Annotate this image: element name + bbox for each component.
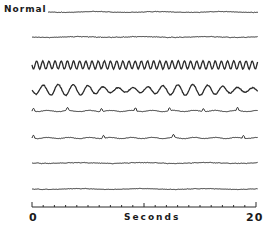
x-tick-end: 20 — [246, 211, 263, 224]
trace-6-line — [32, 134, 258, 138]
x-axis-title: Seconds — [124, 212, 180, 222]
trace-5-line — [32, 107, 258, 111]
trace-4-line — [32, 84, 258, 95]
x-tick-start: 0 — [29, 211, 38, 224]
trace-3-line — [32, 61, 258, 70]
trace-7-line — [32, 162, 258, 164]
x-axis — [32, 202, 256, 207]
row-label-normal: Normal — [4, 4, 47, 14]
trace-1-line — [48, 11, 258, 13]
trace-2-line — [32, 36, 258, 38]
eeg-chart — [0, 0, 273, 237]
trace-8-line — [32, 188, 258, 189]
